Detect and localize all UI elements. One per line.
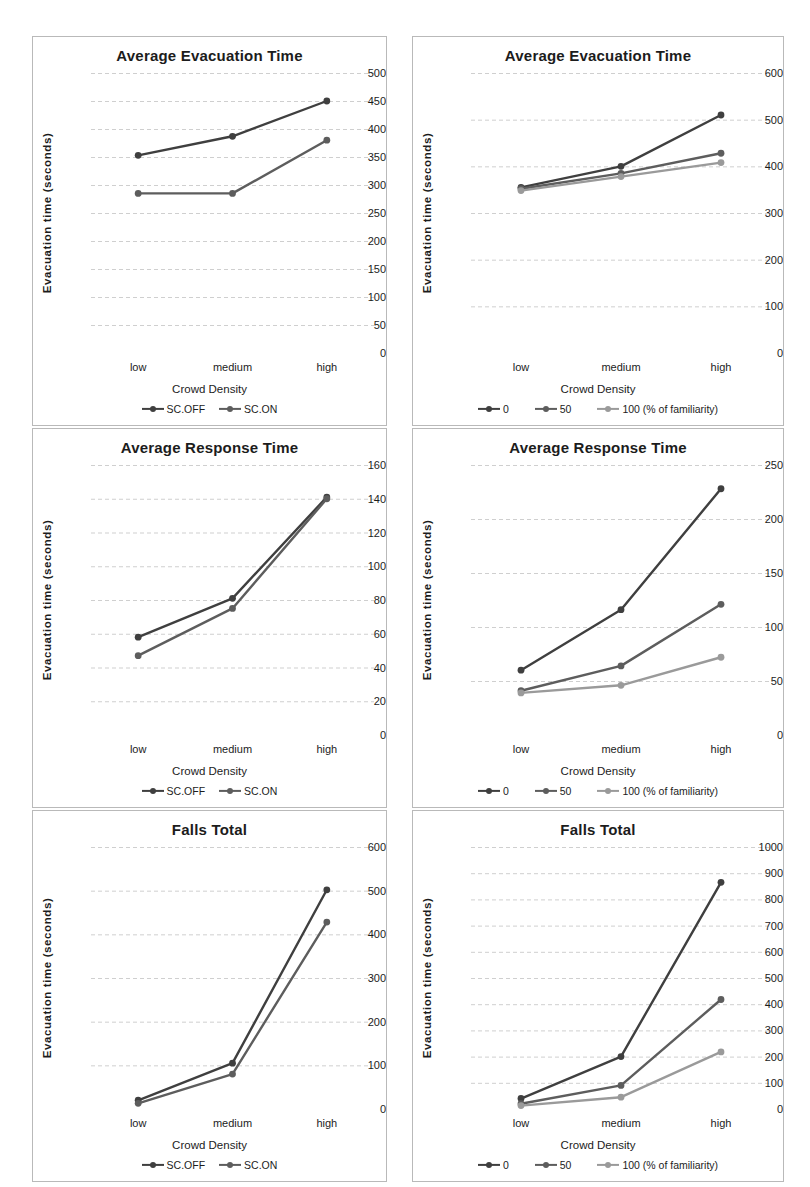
legend-label: SC.OFF [167,1159,206,1171]
legend-item-0[interactable]: 0 [478,1159,509,1171]
data-point [718,996,725,1003]
data-point [618,682,625,689]
legend-item-0[interactable]: SC.OFF [142,1159,206,1171]
y-axis-title: Evacuation time (seconds) [421,133,433,294]
legend-item-0[interactable]: 0 [478,785,509,797]
data-point [618,163,625,170]
plot-canvas [471,73,771,353]
plot-canvas [471,847,771,1109]
x-axis-tick-medium: medium [601,1117,640,1129]
legend-item-1[interactable]: 50 [535,403,572,415]
plot-canvas [91,847,374,1109]
legend-dot [227,406,233,412]
legend-marker-icon [142,1161,164,1170]
legend-item-2[interactable]: 100 (% of familiarity) [597,403,718,415]
y-axis-tick: 250 [336,207,386,219]
legend-item-0[interactable]: 0 [478,403,509,415]
legend-item-1[interactable]: SC.ON [219,1159,277,1171]
y-axis-tick: 0 [733,1103,783,1115]
legend-dot [486,406,492,412]
legend-item-1[interactable]: SC.ON [219,403,277,415]
y-axis-tick: 0 [733,729,783,741]
legend-label: 0 [503,403,509,415]
legend-label: 50 [560,403,572,415]
data-point [518,689,525,696]
legend-item-1[interactable]: SC.ON [219,785,277,797]
legend-marker-icon [142,787,164,796]
y-axis-tick: 700 [733,920,783,932]
plot-area [91,73,374,353]
legend-marker-icon [219,405,241,414]
data-point [135,652,142,659]
y-axis-title: Evacuation time (seconds) [41,898,53,1059]
data-point [718,654,725,661]
data-point [229,605,236,612]
data-point [323,495,330,502]
y-axis-tick: 200 [336,1016,386,1028]
y-axis-tick: 0 [733,347,783,359]
legend-label: 100 (% of familiarity) [622,1159,718,1171]
y-axis-tick: 120 [336,527,386,539]
legend-marker-icon [597,405,619,414]
y-axis-tick: 160 [336,459,386,471]
y-axis-tick: 300 [336,179,386,191]
legend-label: SC.OFF [167,403,206,415]
legend-dot [543,1162,549,1168]
chart-legend: 050100 (% of familiarity) [413,1159,783,1171]
legend-dot [150,1162,156,1168]
x-axis-tick-low: low [513,361,530,373]
data-point [135,1100,142,1107]
chart-panel-response-time-safety-concept: Average Response Time0204060801001201401… [32,428,387,808]
y-axis-tick: 600 [733,946,783,958]
legend-item-2[interactable]: 100 (% of familiarity) [597,1159,718,1171]
y-axis-tick: 300 [336,972,386,984]
y-axis-tick: 400 [336,123,386,135]
x-axis-tick-low: low [130,361,147,373]
legend-item-0[interactable]: SC.OFF [142,785,206,797]
y-axis-tick: 600 [336,841,386,853]
legend-item-0[interactable]: SC.OFF [142,403,206,415]
data-point [135,152,142,159]
chart-legend: SC.OFFSC.ON [33,785,386,797]
chart-title: Average Evacuation Time [33,47,386,64]
data-point [618,606,625,613]
plot-area [91,847,374,1109]
legend-item-1[interactable]: 50 [535,1159,572,1171]
data-point [229,1060,236,1067]
x-axis-tick-high: high [316,361,337,373]
legend-item-2[interactable]: 100 (% of familiarity) [597,785,718,797]
x-axis-title: Crowd Density [33,1139,386,1151]
y-axis-tick: 100 [336,1059,386,1071]
data-point [135,190,142,197]
legend-label: SC.ON [244,403,277,415]
legend-marker-icon [478,1161,500,1170]
y-axis-tick: 600 [733,67,783,79]
data-point [323,137,330,144]
x-axis-title: Crowd Density [33,383,386,395]
legend-dot [486,788,492,794]
y-axis-tick: 500 [733,972,783,984]
y-axis-tick: 500 [336,885,386,897]
y-axis-tick: 300 [733,207,783,219]
chart-legend: SC.OFFSC.ON [33,1159,386,1171]
data-point [718,159,725,166]
legend-marker-icon [478,405,500,414]
y-axis-tick: 250 [733,459,783,471]
data-point [323,98,330,105]
series-line-0 [138,101,327,155]
legend-label: SC.ON [244,1159,277,1171]
legend-dot [605,1162,611,1168]
legend-label: SC.OFF [167,785,206,797]
legend-item-1[interactable]: 50 [535,785,572,797]
y-axis-tick: 100 [336,560,386,572]
legend-label: SC.ON [244,785,277,797]
data-point [718,601,725,608]
legend-dot [150,788,156,794]
data-point [323,919,330,926]
legend-dot [605,788,611,794]
x-axis-tick-medium: medium [601,361,640,373]
chart-title: Falls Total [413,821,783,838]
y-axis-tick: 350 [336,151,386,163]
series-line-0 [521,489,721,670]
x-axis-tick-high: high [711,1117,732,1129]
